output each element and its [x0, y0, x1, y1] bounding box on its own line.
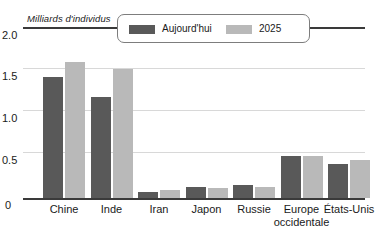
bar	[208, 188, 228, 198]
y-tick-1-0: 1.0	[2, 113, 17, 124]
dark-swatch-icon	[129, 25, 155, 34]
legend-item-2025: 2025	[226, 23, 281, 35]
bar	[43, 77, 63, 198]
bar	[160, 190, 180, 198]
chart-legend: Aujourd'hui 2025	[117, 14, 310, 43]
bar	[233, 185, 253, 198]
bar	[113, 69, 133, 198]
bar	[65, 62, 85, 198]
y-tick-1-5: 1.5	[2, 71, 17, 82]
x-axis-label: États-Unis	[304, 203, 379, 216]
legend-label-aujourdhui: Aujourd'hui	[162, 24, 212, 34]
legend-label-2025: 2025	[259, 24, 281, 34]
y-tick-0: 0	[5, 200, 11, 211]
bar	[281, 156, 301, 198]
y-tick-0-5: 0.5	[2, 155, 17, 166]
x-axis-labels: ChineIndeIranJaponRussieEuropeoccidental…	[23, 203, 365, 241]
bar	[303, 156, 323, 198]
bar	[91, 97, 111, 198]
x-axis-label-line2: occidentale	[257, 216, 347, 229]
bar	[138, 192, 158, 198]
bars-layer	[23, 60, 365, 198]
bar	[328, 164, 348, 198]
bar	[255, 187, 275, 198]
y-tick-2-0: 2.0	[2, 30, 17, 41]
x-axis-label-line1: États-Unis	[324, 203, 375, 215]
bar	[186, 187, 206, 198]
x-axis-baseline	[23, 198, 365, 200]
plot-area	[23, 60, 365, 200]
light-swatch-icon	[226, 25, 252, 34]
bar	[350, 160, 370, 198]
legend-item-aujourdhui: Aujourd'hui	[129, 23, 212, 35]
y-axis-unit-label: Milliards d'individus	[27, 13, 111, 24]
